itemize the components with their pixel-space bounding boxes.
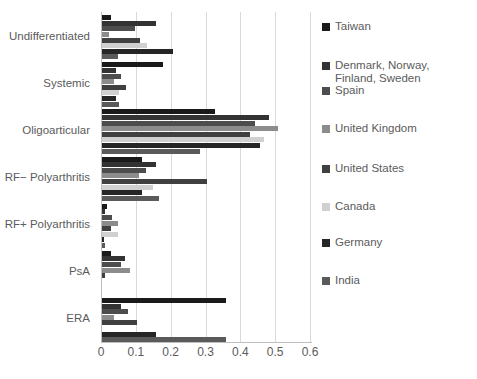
x-tick-label: 0.1 xyxy=(127,345,144,359)
bar xyxy=(102,221,118,226)
category-label: Oligoarticular xyxy=(0,124,90,136)
bar xyxy=(102,62,163,67)
x-tick-label: 0.6 xyxy=(302,345,319,359)
bar xyxy=(102,243,105,248)
bar xyxy=(102,262,121,267)
legend-item[interactable]: Germany xyxy=(322,236,472,249)
x-tick-label: 0.2 xyxy=(162,345,179,359)
legend-item[interactable]: Denmark, Norway, Finland, Sweden xyxy=(322,59,472,85)
category-label: Undifferentiated xyxy=(0,30,90,42)
legend-label: Germany xyxy=(335,236,382,249)
bar xyxy=(102,137,264,142)
bar xyxy=(102,121,255,126)
bar xyxy=(102,162,156,167)
bar xyxy=(102,232,118,237)
bar xyxy=(102,196,159,201)
legend-label: Denmark, Norway, Finland, Sweden xyxy=(335,59,472,85)
bar xyxy=(102,15,111,20)
legend-item[interactable]: Spain xyxy=(322,84,472,97)
legend-item[interactable]: Canada xyxy=(322,200,472,213)
legend-label: Canada xyxy=(335,200,375,213)
legend-item[interactable]: India xyxy=(322,274,472,287)
bar xyxy=(102,226,111,231)
bar xyxy=(102,309,128,314)
bar xyxy=(102,102,119,107)
bar-group xyxy=(102,15,311,60)
bar xyxy=(102,256,125,261)
bar xyxy=(102,143,260,148)
bar-group xyxy=(102,251,311,296)
bar xyxy=(102,21,156,26)
bar xyxy=(102,320,137,325)
bar xyxy=(102,43,147,48)
category-axis: UndifferentiatedSystemicOligoarticularRF… xyxy=(0,12,96,342)
bar xyxy=(102,190,142,195)
category-label: PsA xyxy=(0,265,90,277)
x-axis-tick-labels: 00.10.20.30.40.50.6 xyxy=(101,345,321,365)
bar xyxy=(102,32,109,37)
bar xyxy=(102,90,119,95)
bar xyxy=(102,74,121,79)
legend-label: United Kingdom xyxy=(335,122,417,135)
bar xyxy=(102,209,105,214)
bar xyxy=(102,49,173,54)
legend-swatch-icon xyxy=(322,239,330,247)
category-label: Systemic xyxy=(0,77,90,89)
category-label: RF+ Polyarthritis xyxy=(0,218,90,230)
legend-label: United States xyxy=(335,162,404,175)
bar-group xyxy=(102,204,311,249)
legend-swatch-icon xyxy=(322,125,330,133)
bar xyxy=(102,315,114,320)
bar xyxy=(102,149,200,154)
bar xyxy=(102,268,130,273)
bar xyxy=(102,132,250,137)
bar xyxy=(102,215,112,220)
legend-swatch-icon xyxy=(322,277,330,285)
legend-label: Spain xyxy=(335,84,364,97)
bar xyxy=(102,96,116,101)
bar xyxy=(102,68,116,73)
legend-swatch-icon xyxy=(322,203,330,211)
bar-group xyxy=(102,157,311,202)
bar xyxy=(102,251,111,256)
bar xyxy=(102,185,153,190)
bar xyxy=(102,179,207,184)
bar xyxy=(102,298,226,303)
bar-group xyxy=(102,109,311,154)
legend-item[interactable]: United States xyxy=(322,162,472,175)
legend-swatch-icon xyxy=(322,165,330,173)
bar xyxy=(102,273,105,278)
plot-area xyxy=(101,12,311,342)
bar xyxy=(102,168,146,173)
legend-label: India xyxy=(335,274,360,287)
bar xyxy=(102,54,118,59)
bar xyxy=(102,337,226,342)
bar xyxy=(102,204,107,209)
bar xyxy=(102,38,140,43)
bar xyxy=(102,85,126,90)
legend-swatch-icon xyxy=(322,87,330,95)
legend-item[interactable]: United Kingdom xyxy=(322,122,472,135)
legend-label: Taiwan xyxy=(335,20,371,33)
chart-legend: TaiwanDenmark, Norway, Finland, SwedenSp… xyxy=(322,12,474,312)
bar xyxy=(102,173,139,178)
x-tick-label: 0 xyxy=(98,345,105,359)
legend-swatch-icon xyxy=(322,23,330,31)
bar xyxy=(102,332,156,337)
legend-swatch-icon xyxy=(322,62,330,70)
bar xyxy=(102,237,104,242)
category-label: ERA xyxy=(0,312,90,324)
bar xyxy=(102,79,114,84)
bar xyxy=(102,26,135,31)
bar xyxy=(102,304,121,309)
bar xyxy=(102,115,269,120)
bar xyxy=(102,157,142,162)
legend-item[interactable]: Taiwan xyxy=(322,20,472,33)
grouped-bar-chart: UndifferentiatedSystemicOligoarticularRF… xyxy=(0,0,477,379)
x-tick-label: 0.4 xyxy=(232,345,249,359)
bar-group xyxy=(102,62,311,107)
category-label: RF− Polyarthritis xyxy=(0,171,90,183)
bar xyxy=(102,126,278,131)
bar-group xyxy=(102,298,311,343)
x-tick-label: 0.5 xyxy=(267,345,284,359)
